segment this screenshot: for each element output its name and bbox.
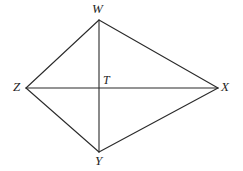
vertex-label-w: W	[92, 2, 103, 15]
vertex-label-t: T	[103, 74, 110, 87]
kite-diagram-svg	[0, 0, 243, 171]
side-yz	[26, 88, 99, 152]
vertex-label-z: Z	[13, 80, 20, 93]
side-wx	[99, 20, 218, 88]
vertex-label-x: X	[221, 80, 229, 93]
side-zw	[26, 20, 99, 88]
side-xy	[99, 88, 218, 152]
vertex-label-y: Y	[95, 154, 102, 167]
geometry-figure-canvas: W X Y Z T	[0, 0, 243, 171]
